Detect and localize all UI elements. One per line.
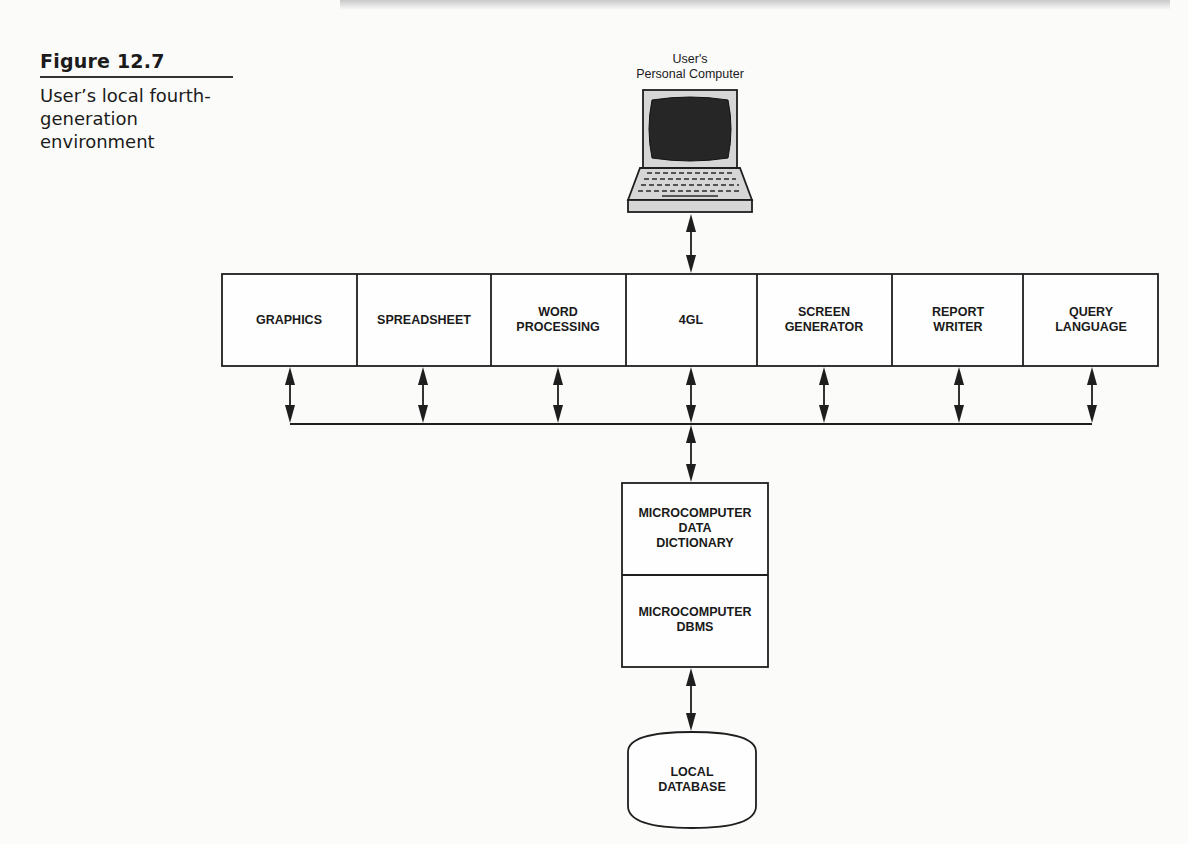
arrow-4gl-bus [686,367,696,423]
arrow-computer-4gl [686,214,696,273]
arrow-screen-generator-bus [819,367,829,423]
local-database: LOCAL DATABASE [628,732,756,828]
tool-report-writer: REPORT WRITER [932,305,984,334]
tool-boxes-row: GRAPHICS SPREADSHEET WORD PROCESSING 4GL… [222,274,1158,366]
tool-graphics: GRAPHICS [256,313,322,327]
tool-label: SPREADSHEET [377,313,471,327]
tool-label: GENERATOR [785,320,864,334]
microcomputer-stack: MICROCOMPUTER DATA DICTIONARY MICROCOMPU… [622,483,768,667]
tool-spreadsheet: SPREADSHEET [377,313,471,327]
tool-4gl: 4GL [679,313,704,327]
dbms-label: MICROCOMPUTER [638,605,751,619]
arrow-graphics-bus [285,367,295,423]
database-label: LOCAL [670,765,713,779]
arrow-spreadsheet-bus [418,367,428,423]
tool-label: PROCESSING [516,320,599,334]
diagram-canvas: User's Personal Computer [0,0,1188,844]
arrow-dbms-database [686,668,696,731]
data-dictionary-label: MICROCOMPUTER [638,506,751,520]
laptop-computer-icon [628,90,752,212]
tool-label: QUERY [1069,305,1114,319]
tool-label: REPORT [932,305,984,319]
tool-label: WRITER [933,320,982,334]
computer-label-line: Personal Computer [636,67,744,81]
arrow-report-writer-bus [954,367,964,423]
arrow-word-processing-bus [553,367,563,423]
arrow-query-language-bus [1087,367,1097,423]
dbms-label: DBMS [677,620,714,634]
arrow-bus-data-dictionary [686,425,696,482]
data-dictionary-label: DICTIONARY [656,536,734,550]
tool-label: WORD [538,305,578,319]
tool-label: GRAPHICS [256,313,322,327]
computer-label-line: User's [672,52,707,66]
personal-computer: User's Personal Computer [628,52,752,212]
tool-label: SCREEN [798,305,850,319]
tool-label: LANGUAGE [1055,320,1127,334]
database-label: DATABASE [658,780,726,794]
data-dictionary-label: DATA [679,521,712,535]
tool-label: 4GL [679,313,704,327]
